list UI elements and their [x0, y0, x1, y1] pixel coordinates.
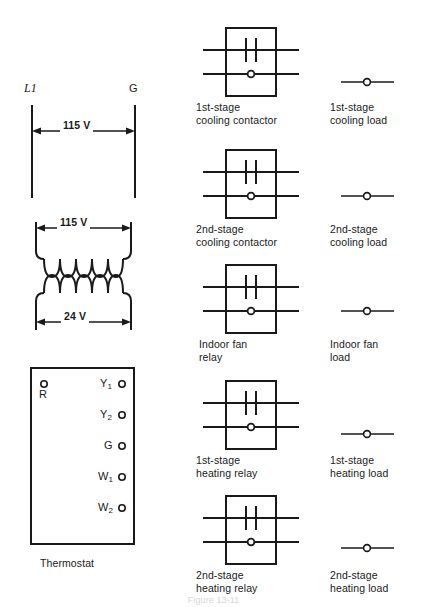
load-caption-3-line2: load: [330, 351, 350, 363]
coil-symbol-4: [203, 381, 299, 449]
load-caption-4: 1st-stageheating load: [330, 454, 388, 479]
terminal-subscript-w1: 1: [108, 475, 113, 484]
thermostat-terminal-label-w1: W1: [98, 470, 113, 487]
coil-caption-2: 2nd-stagecooling contactor: [196, 223, 277, 248]
thermostat-terminal-dot-w2: [119, 505, 125, 511]
figure-caption: Figure 13-11: [0, 594, 427, 607]
thermostat-terminal-label-y1: Y1: [100, 377, 112, 394]
thermostat-terminal-dot-w1: [119, 474, 125, 480]
coil-caption-1-line1: 1st-stage: [196, 101, 240, 113]
supply-voltage-label: 115 V: [60, 119, 93, 132]
transformer-primary: [36, 222, 131, 277]
load-caption-2-line2: cooling load: [330, 236, 387, 248]
coil-caption-5-line1: 2nd-stage: [196, 569, 244, 581]
load-caption-3: Indoor fanload: [330, 338, 378, 363]
load-caption-4-line2: heating load: [330, 467, 388, 479]
coil-caption-5-line2: heating relay: [196, 582, 257, 594]
thermostat-caption: Thermostat: [40, 557, 94, 570]
load-caption-1-line2: cooling load: [330, 114, 387, 126]
terminal-letter-w1: W: [98, 470, 108, 482]
load-symbol-5: [341, 545, 394, 552]
load-caption-4-line1: 1st-stage: [330, 454, 374, 466]
coil-caption-2-line2: cooling contactor: [196, 236, 277, 248]
load-caption-5-line1: 2nd-stage: [330, 569, 378, 581]
terminal-subscript-w2: 2: [108, 506, 113, 515]
load-caption-1: 1st-stagecooling load: [330, 101, 387, 126]
coil-symbol-5: [203, 496, 299, 564]
terminal-subscript-y2: 2: [107, 413, 112, 422]
thermostat-terminal-dot-y1: [119, 381, 125, 387]
coil-symbol-2: [203, 150, 299, 218]
load-caption-2-line1: 2nd-stage: [330, 223, 378, 235]
terminal-subscript-y1: 1: [107, 382, 112, 391]
transformer-primary-voltage-label: 115 V: [57, 216, 90, 229]
coil-caption-2-line1: 2nd-stage: [196, 223, 244, 235]
coil-caption-3: Indoor fanrelay: [199, 338, 247, 363]
load-symbol-1: [341, 79, 394, 86]
thermostat-terminal-dot-y2: [119, 412, 125, 418]
coil-caption-1: 1st-stagecooling contactor: [196, 101, 277, 126]
thermostat-terminal-label-r: R: [39, 388, 47, 401]
thermostat-terminal-label-w2: W2: [98, 501, 113, 518]
thermostat-terminal-dot-r: [41, 381, 47, 387]
coil-caption-5: 2nd-stageheating relay: [196, 569, 257, 594]
load-caption-5-line2: heating load: [330, 582, 388, 594]
coil-caption-3-line2: relay: [199, 351, 222, 363]
load-caption-5: 2nd-stageheating load: [330, 569, 388, 594]
coil-symbol-1: [203, 28, 299, 96]
thermostat-terminal-dot-g: [119, 443, 125, 449]
load-caption-3-line1: Indoor fan: [330, 338, 378, 350]
coil-symbol-3: [203, 265, 299, 333]
supply-label-l1: L1: [24, 82, 37, 95]
load-symbol-4: [341, 431, 394, 438]
load-caption-1-line1: 1st-stage: [330, 101, 374, 113]
thermostat-terminal-label-y2: Y2: [100, 408, 112, 425]
transformer-secondary-voltage-label: 24 V: [61, 310, 89, 323]
thermostat-terminal-label-g: G: [104, 439, 113, 456]
coil-caption-4: 1st-stageheating relay: [196, 454, 257, 479]
load-caption-2: 2nd-stagecooling load: [330, 223, 387, 248]
load-symbol-3: [341, 308, 394, 315]
coil-caption-3-line1: Indoor fan: [199, 338, 247, 350]
terminal-letter-g: G: [104, 439, 113, 451]
coil-caption-4-line2: heating relay: [196, 467, 257, 479]
supply-label-g: G: [129, 82, 138, 95]
load-symbol-2: [341, 193, 394, 200]
coil-caption-4-line1: 1st-stage: [196, 454, 240, 466]
terminal-letter-w2: W: [98, 501, 108, 513]
coil-caption-1-line2: cooling contactor: [196, 114, 277, 126]
